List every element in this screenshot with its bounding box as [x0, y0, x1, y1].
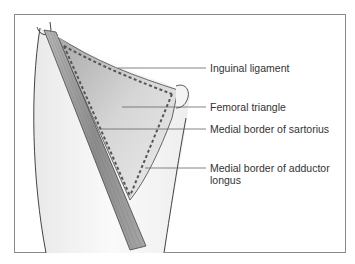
label-medial-border-adductor-longus-line2: longus — [210, 174, 330, 186]
label-medial-border-sartorius: Medial border of sartorius — [210, 123, 329, 135]
label-femoral-triangle: Femoral triangle — [210, 101, 286, 113]
label-medial-border-adductor-longus: Medial border of adductor longus — [210, 162, 330, 186]
label-medial-border-adductor-longus-line1: Medial border of adductor — [210, 162, 330, 174]
label-inguinal-ligament: Inguinal ligament — [210, 62, 289, 74]
